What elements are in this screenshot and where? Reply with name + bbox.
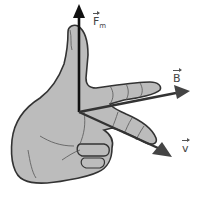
force-symbol: F [93,16,99,27]
velocity-label: v [182,143,189,154]
field-label: B [173,73,181,84]
field-symbol: B [173,73,181,84]
velocity-symbol: v [182,143,189,154]
hand-illustration [12,25,161,183]
force-label: Fm [93,16,106,30]
force-subscript: m [99,22,106,30]
